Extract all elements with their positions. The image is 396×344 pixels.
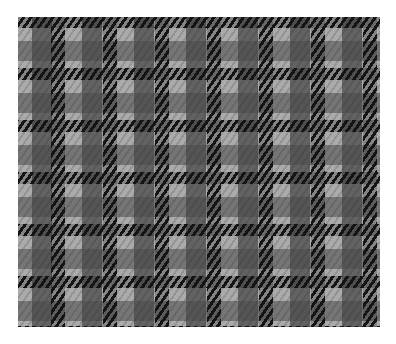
horizontal-black-stripes xyxy=(18,17,380,327)
fabric-swatch xyxy=(18,17,380,327)
